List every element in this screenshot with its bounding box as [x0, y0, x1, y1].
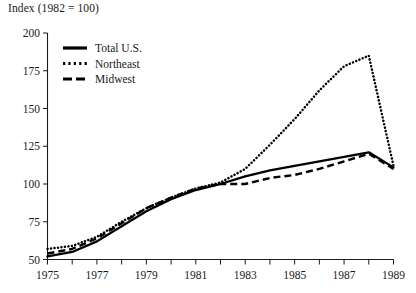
- chart-plot-area: 5075100125150175200 19751977197919811983…: [0, 0, 416, 293]
- x-tick-label: 1987: [333, 269, 356, 281]
- y-axis-tick-marks: [43, 33, 48, 260]
- x-tick-label: 1977: [85, 269, 108, 281]
- y-tick-label: 100: [23, 178, 41, 190]
- x-tick-label: 1981: [184, 269, 207, 281]
- legend-label-total-u-s: Total U.S.: [95, 42, 142, 54]
- series-line-total-us: [48, 152, 394, 256]
- y-tick-label: 150: [23, 103, 41, 115]
- y-axis-group: 5075100125150175200: [23, 27, 48, 266]
- x-axis-tick-marks: [48, 260, 394, 265]
- y-tick-label: 200: [23, 27, 41, 39]
- chart-legend: Total U.S.NortheastMidwest: [63, 42, 142, 85]
- x-tick-label: 1975: [36, 269, 59, 281]
- chart-container: Index (1982 = 100) 5075100125150175200 1…: [0, 0, 416, 293]
- legend-label-northeast: Northeast: [95, 58, 141, 70]
- x-tick-label: 1983: [234, 269, 257, 281]
- x-axis-group: 19751977197919811983198519871989: [36, 260, 405, 281]
- x-tick-label: 1985: [283, 269, 306, 281]
- x-axis-tick-labels: 19751977197919811983198519871989: [36, 269, 405, 281]
- y-tick-label: 125: [23, 140, 41, 152]
- y-tick-label: 50: [29, 254, 41, 266]
- y-tick-label: 75: [29, 216, 41, 228]
- series-line-midwest: [48, 154, 394, 254]
- y-axis-tick-labels: 5075100125150175200: [23, 27, 41, 266]
- legend-label-midwest: Midwest: [95, 73, 136, 85]
- x-tick-label: 1979: [135, 269, 158, 281]
- x-tick-label: 1989: [382, 269, 405, 281]
- y-tick-label: 175: [23, 65, 41, 77]
- data-series-group: [48, 56, 394, 257]
